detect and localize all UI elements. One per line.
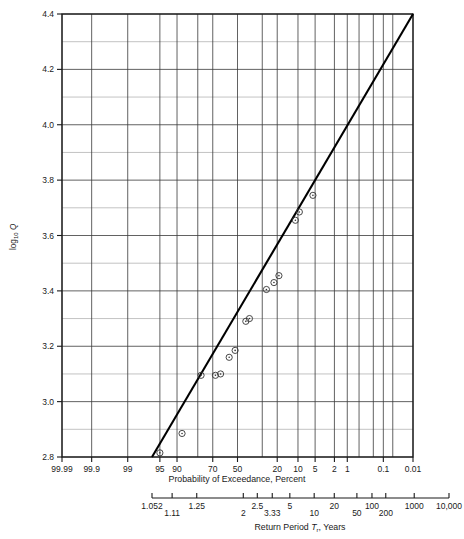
x-tick-label: 0.1	[377, 464, 389, 474]
x-tick-label: 99.9	[83, 464, 100, 474]
x-tick-label: 70	[208, 464, 218, 474]
y-tick-label: 4.4	[42, 9, 54, 19]
data-point-center	[278, 275, 280, 277]
y-tick-label: 3.8	[42, 175, 54, 185]
y-tick-label: 2.8	[42, 452, 54, 462]
x-tick-label: 1	[345, 464, 350, 474]
return-period-tick-label: 1000	[405, 501, 424, 511]
return-period-tick-label: 100	[365, 501, 379, 511]
data-point-center	[181, 433, 183, 435]
return-period-tick-label: 1.25	[188, 501, 205, 511]
y-axis-title-base: log	[9, 239, 18, 250]
data-points	[157, 192, 316, 456]
data-point-center	[200, 375, 202, 377]
x-tick-label: 20	[272, 464, 282, 474]
x-tick-label: 10	[293, 464, 303, 474]
return-period-tick-label: 200	[379, 508, 393, 518]
y-tick-label: 3.2	[42, 341, 54, 351]
return-period-tick-label: 5	[287, 501, 292, 511]
x-axis-title-return-period: Return Period Tr, Years	[254, 522, 346, 533]
data-point-center	[159, 452, 161, 454]
y-axis-ticks	[57, 14, 62, 457]
x-tick-label: 95	[155, 464, 165, 474]
return-period-tick-label: 10	[309, 508, 319, 518]
x-tick-label: 99	[123, 464, 133, 474]
y-tick-label: 3.0	[42, 397, 54, 407]
y-axis-title-var: Q	[9, 223, 18, 232]
x-tick-label: 90	[172, 464, 182, 474]
data-point-center	[266, 289, 268, 291]
grid-major	[62, 14, 413, 457]
return-period-title-text: Return Period	[254, 522, 311, 532]
return-period-tick-label: 1.052	[141, 501, 163, 511]
x-tick-label: 50	[233, 464, 243, 474]
return-period-tick-label: 2	[241, 508, 246, 518]
y-tick-label: 3.6	[42, 231, 54, 241]
x-tick-label: 2	[332, 464, 337, 474]
y-axis-title: log10 Q	[9, 223, 19, 250]
return-period-ticks	[152, 493, 449, 498]
y-axis-tick-labels: 2.83.03.23.43.63.84.04.24.4	[42, 9, 54, 462]
return-period-tick-label: 3.33	[264, 508, 281, 518]
svg-text:log10 Q: log10 Q	[9, 223, 19, 250]
y-tick-label: 4.0	[42, 120, 54, 130]
data-point-center	[273, 282, 275, 284]
return-period-tick-label: 2.5	[251, 501, 263, 511]
data-point-center	[234, 350, 236, 352]
data-point-center	[295, 219, 297, 221]
x-axis-tick-labels: 99.9999.9999590705020105210.10.01	[51, 464, 421, 474]
data-point-center	[215, 375, 217, 377]
data-point-center	[245, 321, 247, 323]
return-period-labels: 1.0521.111.2522.53.335102050100200100010…	[141, 501, 462, 518]
y-tick-label: 3.4	[42, 286, 54, 296]
probability-plot-svg: 2.83.03.23.43.63.84.04.24.4 99.9999.9999…	[0, 0, 464, 539]
x-tick-label: 0.01	[405, 464, 422, 474]
data-point-center	[312, 195, 314, 197]
data-point-center	[228, 357, 230, 359]
data-point-center	[299, 211, 301, 213]
return-period-tick-label: 20	[330, 501, 340, 511]
x-axis-title-probability: Probability of Exceedance, Percent	[169, 474, 306, 484]
data-point-center	[249, 318, 251, 320]
x-axis-ticks	[62, 457, 413, 462]
x-tick-label: 5	[313, 464, 318, 474]
return-period-years: , Years	[319, 522, 347, 532]
return-period-tick-label: 10,000	[436, 501, 462, 511]
return-period-tick-label: 50	[352, 508, 362, 518]
data-point-center	[220, 373, 222, 375]
y-tick-label: 4.2	[42, 64, 54, 74]
chart-figure: 2.83.03.23.43.63.84.04.24.4 99.9999.9999…	[0, 0, 464, 539]
return-period-tick-label: 1.11	[164, 508, 180, 518]
x-tick-label: 99.99	[51, 464, 73, 474]
